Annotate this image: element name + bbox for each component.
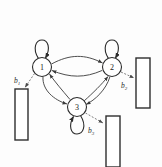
output-box-b1 [15, 89, 28, 140]
output-label-b2: b2 [121, 81, 128, 91]
output-label-b2-sub: 2 [125, 86, 128, 91]
self-loop-node-3 [71, 116, 84, 135]
node-1-label: 1 [40, 63, 44, 72]
node-3-label: 3 [75, 103, 79, 112]
node-2-label: 2 [110, 63, 114, 72]
self-loop-node-1 [35, 40, 48, 59]
edge-2-to-1 [52, 71, 102, 77]
output-label-b1: b1 [14, 76, 20, 86]
output-label-b1-sub: 1 [18, 81, 21, 86]
transition-diagram-figure: 1 2 3 b1 b2 b3 [0, 0, 162, 167]
edge-3-to-1 [50, 74, 71, 100]
output-box-b2 [136, 58, 150, 108]
dashed-arrow-b3 [86, 113, 104, 123]
dashed-arrow-b1 [25, 74, 35, 88]
output-label-b3: b3 [88, 126, 95, 136]
edge-1-to-2 [52, 56, 103, 64]
output-box-b3 [106, 116, 120, 167]
edge-2-to-3 [86, 77, 110, 105]
self-loop-node-2 [105, 40, 118, 59]
diagram-canvas: 1 2 3 b1 b2 b3 [0, 0, 162, 167]
dashed-arrow-b2 [121, 72, 134, 78]
output-label-b3-sub: 3 [92, 131, 95, 136]
